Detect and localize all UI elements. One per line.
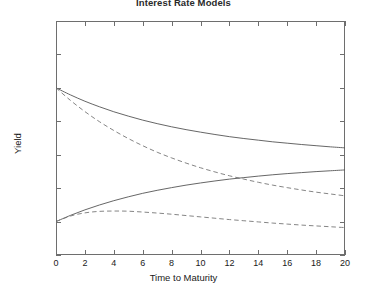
chart-title: Interest Rate Models — [0, 0, 367, 8]
y-tick-mark — [56, 188, 61, 189]
y-axis-label: Yield — [12, 114, 23, 174]
x-tick-mark — [258, 21, 259, 26]
x-axis-label: Time to Maturity — [0, 272, 367, 283]
y-tick-mark — [340, 121, 345, 122]
x-tick-mark — [114, 21, 115, 26]
x-tick-mark — [229, 21, 230, 26]
x-tick-mark — [172, 250, 173, 255]
x-tick-label: 16 — [272, 258, 302, 268]
series-line-low-start-solid — [56, 170, 345, 222]
x-tick-label: 2 — [70, 258, 100, 268]
x-tick-mark — [316, 250, 317, 255]
x-tick-mark — [287, 21, 288, 26]
x-tick-mark — [85, 21, 86, 26]
y-tick-mark — [56, 54, 61, 55]
x-tick-mark — [201, 250, 202, 255]
y-tick-mark — [340, 188, 345, 189]
plot-area — [56, 21, 345, 255]
y-tick-mark — [340, 88, 345, 89]
x-tick-label: 18 — [301, 258, 331, 268]
x-tick-mark — [316, 21, 317, 26]
series-line-high-start-solid — [56, 88, 345, 148]
x-tick-mark — [56, 21, 57, 26]
y-tick-mark — [56, 88, 61, 89]
x-tick-label: 10 — [186, 258, 216, 268]
series-line-low-start-dashed-humped — [56, 211, 345, 228]
x-tick-mark — [172, 21, 173, 26]
y-tick-mark — [340, 222, 345, 223]
x-tick-mark — [114, 250, 115, 255]
x-tick-label: 6 — [128, 258, 158, 268]
y-tick-mark — [56, 155, 61, 156]
x-tick-mark — [258, 250, 259, 255]
x-tick-mark — [143, 250, 144, 255]
y-tick-mark — [340, 255, 345, 256]
x-tick-mark — [287, 250, 288, 255]
x-tick-mark — [143, 21, 144, 26]
x-tick-mark — [56, 250, 57, 255]
x-tick-label: 4 — [99, 258, 129, 268]
x-tick-mark — [85, 250, 86, 255]
curves-layer — [56, 21, 345, 255]
x-tick-label: 8 — [157, 258, 187, 268]
x-tick-mark — [229, 250, 230, 255]
figure-canvas: Interest Rate Models 00.020.040.060.080.… — [0, 0, 367, 298]
y-tick-mark — [340, 54, 345, 55]
x-tick-label: 20 — [330, 258, 360, 268]
series-line-high-start-dashed — [56, 88, 345, 196]
x-tick-mark — [345, 250, 346, 255]
x-tick-label: 0 — [41, 258, 71, 268]
x-tick-mark — [345, 21, 346, 26]
y-tick-mark — [56, 121, 61, 122]
x-tick-label: 12 — [214, 258, 244, 268]
y-tick-mark — [56, 255, 61, 256]
x-tick-label: 14 — [243, 258, 273, 268]
y-tick-mark — [340, 155, 345, 156]
x-tick-mark — [201, 21, 202, 26]
y-tick-mark — [56, 222, 61, 223]
